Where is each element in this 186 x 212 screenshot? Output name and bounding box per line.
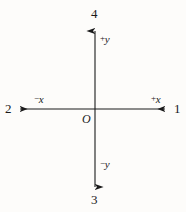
- axis-label-positive-y: +y: [100, 34, 110, 45]
- axis-label-positive-x: +x: [151, 94, 161, 105]
- axis-label-negative-y: −y: [100, 159, 110, 170]
- axis-var-x-negative: x: [39, 93, 44, 105]
- origin-label: O: [82, 113, 91, 125]
- coordinate-axes-figure: 4 3 2 1 +y −y −x +x O: [0, 0, 186, 212]
- callout-3: 3: [91, 193, 98, 206]
- axis-var-x-positive: x: [156, 93, 161, 105]
- axes-drawing: [0, 0, 186, 212]
- callout-1: 1: [174, 102, 181, 115]
- callout-4: 4: [91, 7, 98, 20]
- axis-var-y-positive: y: [105, 33, 110, 45]
- callout-2: 2: [5, 102, 12, 115]
- axis-var-y-negative: y: [105, 158, 110, 170]
- axis-label-negative-x: −x: [34, 94, 44, 105]
